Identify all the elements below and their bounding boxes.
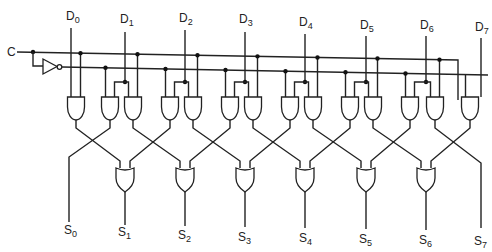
output-label-s1: S1: [118, 226, 131, 241]
and-gate-d1-shift-a: [102, 97, 119, 120]
data-split-d5: [355, 82, 369, 97]
inverter-gate: [33, 52, 62, 74]
data-split-d3: [235, 82, 249, 97]
and-gate-d5-shift-b: [365, 97, 382, 120]
wire-d4-to-s3: [250, 120, 290, 168]
ctrl-inv-dot-d1: [103, 66, 107, 70]
data-split-d6: [415, 82, 431, 97]
control-bus-c: [17, 50, 458, 100]
and-gate-d6-shift-b: [427, 97, 444, 120]
output-label-s5: S5: [359, 233, 372, 248]
and-gate-d1-shift-b: [125, 97, 142, 120]
ctrl-dot-d3: [255, 54, 259, 58]
or-gate-s4: [296, 168, 314, 192]
wire-d2-to-s3: [193, 120, 240, 168]
and-gate-d7: [462, 97, 479, 120]
wire-d6-to-s5: [371, 120, 410, 168]
input-label-d5: D5: [360, 19, 374, 34]
and-gate-d2-shift-a: [162, 97, 179, 120]
and-gate-d2-shift-b: [185, 97, 202, 120]
wire-d0-to-s1: [76, 120, 120, 168]
and-gate-d6-shift-a: [402, 97, 419, 120]
wire-d4-to-s5: [313, 120, 361, 168]
input-label-d1: D1: [120, 13, 134, 28]
wire-d3-to-s4: [253, 120, 300, 168]
data-split-d4: [295, 82, 309, 97]
output-label-s3: S3: [238, 231, 251, 246]
data-split-d1: [115, 82, 129, 97]
or-gate-s3: [236, 168, 254, 192]
wire-d2-to-s1: [130, 120, 170, 168]
wire-d5-to-s4: [310, 120, 350, 168]
and-gate-d4-shift-b: [305, 97, 322, 120]
data-split-d2: [175, 82, 189, 97]
output-label-s6: S6: [419, 234, 432, 249]
and-gate-d4-shift-a: [282, 97, 299, 120]
ctrl-inv-dot-d6: [403, 71, 407, 75]
output-label-s2: S2: [178, 229, 191, 244]
and-gate-d3-shift-a: [222, 97, 239, 120]
output-label-s4: S4: [299, 232, 312, 247]
ctrl-inv-dot-d5: [343, 70, 347, 74]
or-gate-s2: [176, 168, 194, 192]
ctrl-inv-dot-d2: [163, 67, 167, 71]
control-bus-c-inverted: [62, 67, 488, 75]
ctrl-dot-d6: [437, 57, 441, 61]
input-label-d2: D2: [179, 12, 193, 27]
wire-d5-to-s6: [373, 120, 421, 168]
control-label-c: C: [7, 46, 16, 58]
input-label-d6: D6: [420, 19, 434, 34]
output-label-s0: S0: [64, 224, 77, 239]
ctrl-dot-d0: [78, 51, 82, 55]
and-gate-d3-shift-b: [245, 97, 262, 120]
ctrl-dot-d4: [315, 55, 319, 59]
input-label-d7: D7: [475, 21, 489, 36]
wire-d1-to-s0: [69, 120, 110, 222]
circuit-schematic: [0, 0, 492, 252]
ctrl-inv-dot-d3: [223, 68, 227, 72]
shifter-circuit-diagram: C D0D1D2D3D4D5D6D7 S0S1S2S3S4S5S6S7: [0, 0, 492, 252]
output-label-s7: S7: [474, 235, 487, 250]
input-label-d0: D0: [66, 10, 80, 25]
input-label-d4: D4: [299, 16, 313, 31]
circuit-body: [68, 28, 482, 230]
wire-d6-to-s7: [435, 120, 481, 228]
and-gate-d5-shift-a: [342, 97, 359, 120]
or-gate-s1: [116, 168, 134, 192]
or-gate-s5: [357, 168, 375, 192]
ctrl-dot-d2: [195, 53, 199, 57]
input-label-d3: D3: [239, 13, 253, 28]
wire-d3-to-s2: [190, 120, 230, 168]
ctrl-dot-d5: [375, 56, 379, 60]
ctrl-dot-d1: [135, 52, 139, 56]
or-gate-s6: [417, 168, 435, 192]
wire-d1-to-s2: [133, 120, 180, 168]
wire-d7-to-s6: [431, 120, 470, 168]
ctrl-inv-dot-d4: [283, 69, 287, 73]
and-gate-d0: [68, 97, 85, 120]
